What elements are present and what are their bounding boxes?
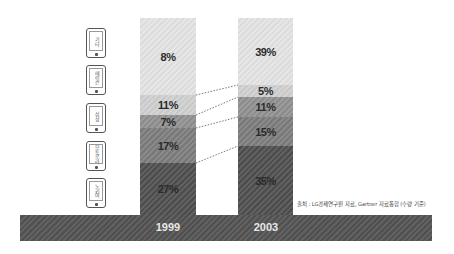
legend-phone-ericsson: 에릭슨 — [86, 65, 106, 95]
legend-phone-samsung: 삼성 — [86, 103, 106, 133]
connector-ericsson — [196, 85, 238, 95]
segment-nokia-2003: 35% — [238, 146, 293, 215]
legend-label-motorola: 모토로라 — [89, 144, 103, 164]
segment-motorola-1999: 17% — [140, 128, 196, 163]
legend-label-ericsson: 에릭슨 — [89, 68, 103, 88]
x-tick-2003: 2003 — [238, 221, 294, 233]
legend-phone-nokia: 노키아 — [86, 178, 106, 208]
legend-label-nokia: 노키아 — [89, 181, 103, 201]
segment-ericsson-2003: 5% — [238, 85, 293, 97]
legend-label-samsung: 삼성 — [89, 106, 103, 126]
legend-label-other: 기타 — [89, 31, 103, 51]
phone-button-icon — [95, 166, 98, 169]
segment-other-1999: 8% — [140, 18, 196, 95]
source-note: 출처 : LG경제연구원 자료, Gartner 자료통합 (수량 기준) — [297, 200, 426, 208]
segment-ericsson-1999: 11% — [140, 95, 196, 115]
connector-nokia — [196, 146, 238, 163]
connector-samsung — [196, 97, 238, 115]
phone-button-icon — [95, 128, 98, 131]
segment-samsung-2003: 11% — [238, 97, 293, 117]
segment-other-2003: 39% — [238, 18, 293, 85]
segment-nokia-1999: 27% — [140, 163, 196, 215]
connector-motorola — [196, 117, 238, 128]
legend-phone-motorola: 모토로라 — [86, 141, 106, 171]
x-axis-band — [20, 215, 432, 241]
segment-motorola-2003: 15% — [238, 117, 293, 146]
segment-samsung-1999: 7% — [140, 115, 196, 128]
bar-1999: 8% 11% 7% 17% 27% — [140, 18, 196, 215]
bar-2003: 39% 5% 11% 15% 35% — [238, 18, 293, 215]
phone-button-icon — [95, 90, 98, 93]
legend-phone-other: 기타 — [86, 28, 106, 58]
phone-button-icon — [95, 53, 98, 56]
phone-button-icon — [95, 203, 98, 206]
x-tick-1999: 1999 — [140, 221, 196, 233]
